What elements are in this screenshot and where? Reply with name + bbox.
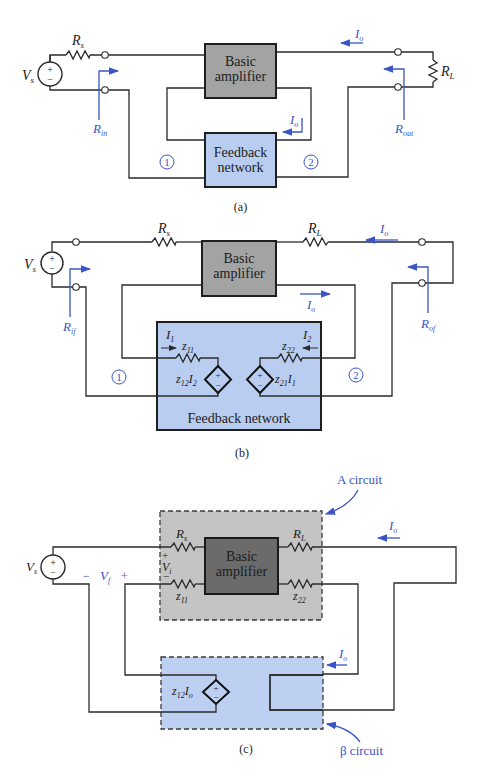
label-rin: Rin (92, 121, 107, 138)
label-rs: Rs (71, 33, 85, 50)
terminal-icon (395, 84, 402, 91)
caption-c: (c) (239, 742, 252, 756)
terminal-icon (419, 280, 426, 287)
label-rs: Rs (157, 221, 171, 238)
vf-plus: + (121, 569, 128, 583)
label-vs: Vs (22, 68, 35, 85)
feedback-label-line2: network (218, 160, 264, 175)
port-2-label: 2 (308, 156, 314, 168)
amplifier-label-line2: amplifier (213, 266, 265, 281)
a-circuit-pointer-icon (326, 490, 358, 514)
beta-circuit-pointer-icon (327, 724, 360, 742)
amplifier-label-line1: Basic (223, 251, 254, 266)
label-io-mid: Io (289, 112, 298, 129)
panel-c: Rs z11 RL z22 Basic amplifier + Vi − − V… (26, 472, 456, 758)
dep-plus: + (257, 370, 262, 380)
rin-arrow-icon (99, 71, 118, 120)
label-rout: Rout (394, 121, 414, 138)
feedback-label-line1: Feedback (214, 145, 268, 160)
terminal-icon (73, 239, 80, 246)
resistor-rs-icon (66, 51, 90, 59)
resistor-rl-icon (429, 60, 437, 82)
label-vf: Vf (100, 568, 112, 585)
wire-source-top (50, 55, 66, 62)
wire-input-top (52, 242, 152, 251)
rout-arrow-icon (384, 69, 404, 120)
feedback-network-label: Feedback network (187, 411, 290, 426)
beta-circuit-label: β circuit (340, 743, 383, 758)
terminal-icon (395, 49, 402, 56)
label-io-top: Io (354, 26, 363, 43)
terminal-icon (419, 239, 426, 246)
rif-arrow-icon (70, 269, 90, 317)
port-1-label: 1 (116, 371, 122, 383)
caption-a: (a) (234, 200, 247, 214)
caption-b: (b) (235, 446, 249, 460)
panel-a: + − Vs Rs RL Basic amplifier Feedback ne… (22, 26, 455, 214)
dep-minus: − (257, 380, 262, 390)
amplifier-label-line1: Basic (225, 54, 256, 69)
resistor-rs-icon (152, 238, 176, 246)
amplifier-label-line2: amplifier (215, 69, 267, 84)
vi-minus: − (163, 570, 169, 582)
terminal-icon (102, 52, 109, 59)
source-minus: − (50, 567, 56, 578)
label-io-top: Io (388, 518, 397, 535)
port-2-label: 2 (353, 369, 359, 381)
dep-minus: − (213, 692, 218, 702)
wire-source-top (53, 547, 171, 555)
amplifier-label-line1: Basic (226, 549, 257, 564)
source-minus: − (47, 74, 53, 85)
label-io-mid: Io (338, 646, 347, 663)
panel-b: Feedback network + − + − I1 z11 I2 z22 z… (24, 221, 453, 460)
a-circuit-label: A circuit (337, 472, 383, 487)
dep-minus: − (215, 380, 220, 390)
label-io-top: Io (379, 221, 388, 238)
amplifier-label-line2: amplifier (216, 564, 268, 579)
terminal-icon (73, 284, 80, 291)
label-rof: Rof (420, 316, 437, 333)
resistor-rl-icon (303, 238, 328, 246)
label-vs: Vs (24, 257, 37, 274)
label-rl: RL (307, 221, 322, 238)
rof-arrow-icon (408, 267, 428, 313)
wire-feedback-left (167, 88, 205, 140)
source-minus: − (49, 263, 55, 274)
terminal-icon (102, 87, 109, 94)
feedback-amplifier-figure: + − Vs Rs RL Basic amplifier Feedback ne… (0, 0, 481, 772)
port-1-label: 1 (164, 156, 170, 168)
vf-minus: − (83, 569, 90, 583)
label-io-mid: Io (306, 297, 315, 314)
wire-output-top (276, 52, 433, 60)
label-vs: Vs (26, 559, 37, 576)
label-rif: Rif (62, 319, 77, 336)
label-rl: RL (440, 64, 455, 81)
wire-input-bottom (50, 55, 205, 178)
dep-plus: + (215, 370, 220, 380)
